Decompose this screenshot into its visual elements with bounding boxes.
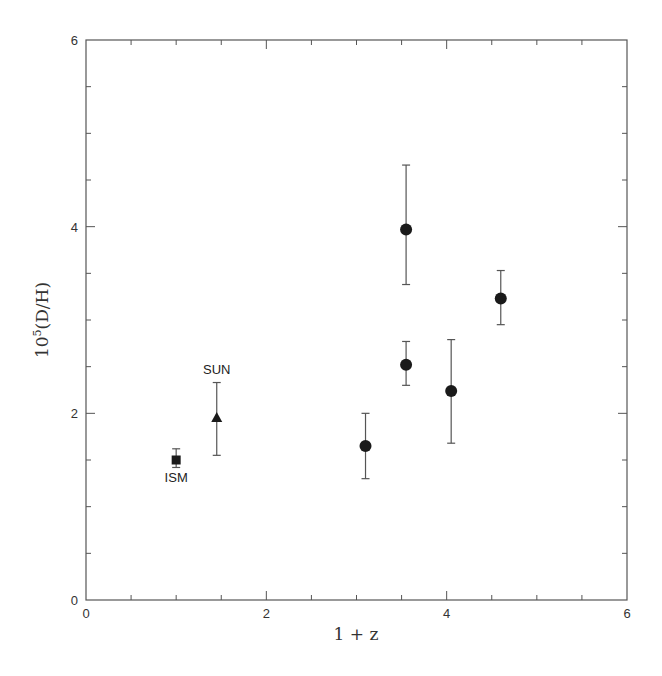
data-point-circle — [360, 440, 372, 452]
data-point-triangle — [211, 412, 222, 422]
tick-labels: 02460246 — [71, 33, 631, 621]
ticks — [86, 40, 627, 600]
y-axis-label-rest: (D/H) — [32, 282, 52, 329]
y-tick-label: 4 — [71, 220, 78, 235]
data-point-circle — [445, 385, 457, 397]
x-tick-label: 0 — [82, 606, 89, 621]
x-axis-label: 1 + z — [334, 624, 379, 644]
annotation-ism: ISM — [165, 470, 188, 485]
x-tick-label: 2 — [263, 606, 270, 621]
x-tick-label: 6 — [623, 606, 630, 621]
data-marks: ISMSUN — [165, 165, 507, 485]
y-tick-label: 0 — [71, 593, 78, 608]
x-tick-label: 4 — [443, 606, 450, 621]
data-point-circle — [495, 293, 507, 305]
y-tick-label: 2 — [71, 406, 78, 421]
data-point-circle — [400, 359, 412, 371]
y-tick-label: 6 — [71, 33, 78, 48]
y-axis-label-sup: 5 — [31, 329, 44, 336]
plot-frame — [86, 40, 627, 600]
data-point-circle — [400, 223, 412, 235]
chart: 02460246 1 + z 105(D/H) ISMSUN — [0, 0, 662, 676]
data-point-square — [172, 456, 181, 465]
annotation-sun: SUN — [203, 362, 230, 377]
y-axis-label-base: 10 — [32, 336, 52, 358]
y-axis-label: 105(D/H) — [31, 282, 52, 358]
